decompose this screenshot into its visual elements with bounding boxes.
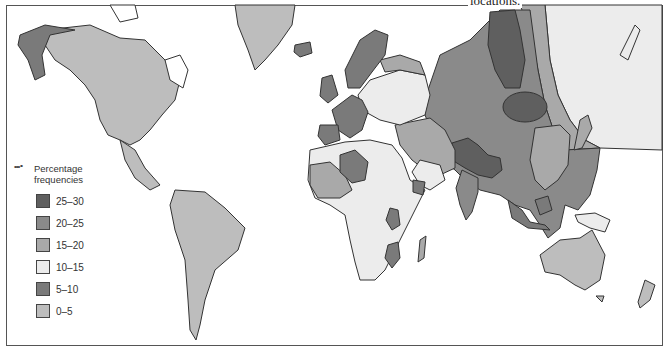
region-british-isles [320,75,338,103]
legend-item-15-20: 15–20 [36,234,104,256]
region-india [456,170,478,220]
legend-label: 25–30 [56,196,84,207]
legend-swatch [36,282,50,296]
legend-title-line1: Percentage [34,163,83,174]
legend-item-0-5: 0–5 [36,300,104,322]
region-south-america [170,190,245,340]
region-iberia [318,125,340,145]
legend-item-25-30: 25–30 [36,190,104,212]
region-madagascar [418,236,426,262]
region-north-america [45,25,180,145]
legend-title-line2: frequencies [34,174,83,185]
legend-label: 20–25 [56,218,84,229]
legend-label: 15–20 [56,240,84,251]
legend-title: •••∘ Percentage frequencies [14,163,104,185]
map-caption: locations. [468,0,522,8]
island-dots-icon: •••∘ [14,161,30,172]
legend-swatch [36,260,50,274]
legend-label: 5–10 [56,284,78,295]
region-new-zealand [638,280,655,308]
legend-swatch [36,194,50,208]
map-legend: •••∘ Percentage frequencies 25–30 20–25 … [14,163,104,322]
region-greenland [235,5,295,70]
legend-swatch [36,238,50,252]
region-australia [540,230,605,290]
legend-swatch [36,216,50,230]
legend-label: 0–5 [56,306,73,317]
legend-item-10-15: 10–15 [36,256,104,278]
region-eastern-europe [358,70,430,125]
region-central-america [120,140,160,190]
region-iceland [294,42,312,57]
legend-label: 10–15 [56,262,84,273]
region-new-guinea [575,213,610,232]
legend-swatch [36,304,50,318]
legend-item-5-10: 5–10 [36,278,104,300]
legend-item-20-25: 20–25 [36,212,104,234]
region-mongolia-core [503,92,547,122]
